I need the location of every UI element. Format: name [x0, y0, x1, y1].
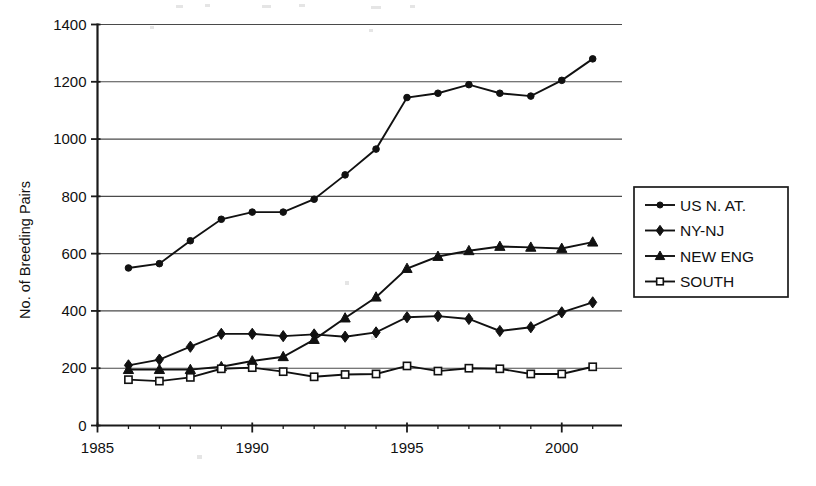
data-point — [528, 93, 535, 100]
data-point — [218, 365, 225, 372]
data-point — [558, 370, 565, 377]
chart-legend: US N. AT.NY-NJNEW ENGSOUTH — [634, 187, 788, 297]
data-point — [125, 376, 132, 383]
data-point — [249, 209, 256, 216]
x-tick-label: 1995 — [390, 439, 423, 456]
data-point — [372, 370, 379, 377]
legend-marker — [657, 278, 664, 285]
legend-label: US N. AT. — [680, 197, 746, 214]
data-point — [404, 94, 411, 101]
x-tick-label: 1990 — [236, 439, 269, 456]
x-tick-label: 1985 — [81, 439, 114, 456]
data-point — [403, 362, 410, 369]
line-chart-canvas: 0200400600800100012001400 19851990199520… — [0, 0, 816, 486]
data-point — [496, 365, 503, 372]
data-point — [311, 373, 318, 380]
data-point — [342, 371, 349, 378]
data-point — [280, 209, 287, 216]
y-tick-label: 1400 — [53, 16, 86, 33]
y-tick-label: 1000 — [53, 130, 86, 147]
data-point — [589, 363, 596, 370]
data-point — [435, 90, 442, 97]
chart-figure: 0200400600800100012001400 19851990199520… — [0, 0, 816, 486]
data-point — [311, 196, 318, 203]
y-tick-label: 0 — [78, 417, 86, 434]
data-point — [156, 260, 163, 267]
data-point — [249, 364, 256, 371]
data-point — [434, 367, 441, 374]
data-point — [527, 370, 534, 377]
y-tick-label: 1200 — [53, 73, 86, 90]
data-point — [187, 374, 194, 381]
legend-label: NY-NJ — [680, 222, 724, 239]
data-point — [465, 365, 472, 372]
data-point — [342, 172, 349, 179]
data-point — [156, 378, 163, 385]
y-tick-label: 600 — [61, 245, 86, 262]
data-point — [125, 265, 132, 272]
data-point — [373, 146, 380, 153]
y-axis-title-text: No. of Breeding Pairs — [17, 181, 33, 319]
legend-marker — [657, 202, 663, 208]
data-point — [187, 237, 194, 244]
data-point — [280, 368, 287, 375]
y-axis-title: No. of Breeding Pairs — [17, 181, 33, 319]
legend-label: SOUTH — [680, 273, 734, 290]
y-tick-label: 200 — [61, 359, 86, 376]
data-point — [466, 81, 473, 88]
x-tick-label: 2000 — [545, 439, 578, 456]
y-tick-label: 400 — [61, 302, 86, 319]
data-point — [589, 56, 596, 63]
data-point — [218, 216, 225, 223]
data-point — [558, 77, 565, 84]
y-tick-label: 800 — [61, 188, 86, 205]
legend-label: NEW ENG — [680, 248, 754, 265]
data-point — [497, 90, 504, 97]
